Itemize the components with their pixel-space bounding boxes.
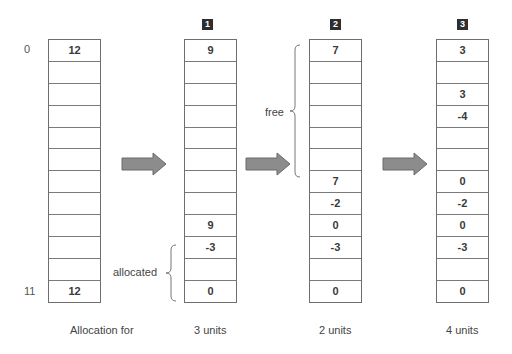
memory-column-initial: 12 12 [48,39,101,303]
memory-cell [437,62,488,84]
caption-step-2: 2 units [319,324,351,336]
memory-cell [49,149,100,171]
memory-cell [49,193,100,215]
free-label: free [265,106,284,118]
memory-cell: 0 [310,281,361,303]
memory-cell [49,259,100,281]
memory-cell: -3 [310,237,361,259]
memory-cell [49,84,100,106]
memory-cell: 3 [437,40,488,62]
memory-column-step-2: 7 7 -2 0 -3 0 [309,39,362,303]
memory-cell [310,259,361,281]
memory-cell: 12 [49,281,100,303]
memory-cell: -4 [437,106,488,128]
memory-cell [185,128,236,150]
memory-cell [310,149,361,171]
memory-cell [185,62,236,84]
memory-cell: 7 [310,171,361,193]
caption-initial: Allocation for [70,324,134,336]
memory-cell: -2 [310,193,361,215]
caption-step-3: 4 units [446,324,478,336]
memory-cell [49,237,100,259]
memory-cell: -2 [437,193,488,215]
memory-cell: 7 [310,40,361,62]
memory-cell: 0 [310,215,361,237]
memory-column-step-1: 9 9 -3 0 [184,39,237,303]
memory-cell: -3 [437,237,488,259]
memory-cell [49,106,100,128]
memory-column-step-3: 3 3 -4 0 -2 0 -3 0 [436,39,489,303]
memory-cell [310,128,361,150]
memory-cell: 0 [437,171,488,193]
memory-cell: 0 [185,281,236,303]
memory-cell [437,259,488,281]
memory-cell [185,193,236,215]
right-arrow-icon [245,152,291,176]
right-arrow-icon [382,152,428,176]
memory-cell: 9 [185,215,236,237]
memory-cell: 9 [185,40,236,62]
memory-cell [49,171,100,193]
memory-cell [310,62,361,84]
memory-cell [49,62,100,84]
memory-cell: -3 [185,237,236,259]
index-label-first: 0 [24,43,30,55]
memory-cell [185,259,236,281]
memory-cell [49,215,100,237]
allocated-label: allocated [113,266,157,278]
memory-cell [185,149,236,171]
step-badge-1: 1 [202,19,213,30]
step-badge-2: 2 [330,19,341,30]
memory-cell: 0 [437,215,488,237]
step-badge-3: 3 [457,19,468,30]
index-label-last: 11 [24,285,35,297]
memory-cell [49,128,100,150]
memory-cell [185,84,236,106]
memory-cell [310,106,361,128]
memory-cell [185,106,236,128]
memory-cell: 12 [49,40,100,62]
memory-cell: 0 [437,281,488,303]
caption-step-1: 3 units [194,324,226,336]
memory-cell [437,128,488,150]
free-brace-icon [288,44,302,178]
memory-cell [185,171,236,193]
memory-cell [437,149,488,171]
allocated-brace-icon [164,244,178,302]
memory-cell [310,84,361,106]
right-arrow-icon [121,152,167,176]
memory-cell: 3 [437,84,488,106]
